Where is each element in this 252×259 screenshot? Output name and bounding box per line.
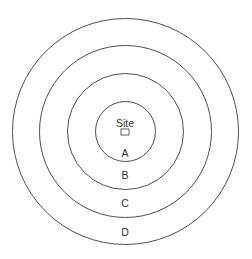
concentric-zones-diagram: Site A B C D bbox=[0, 0, 252, 259]
site-label: Site bbox=[116, 117, 134, 129]
zone-d-label: D bbox=[121, 226, 129, 238]
site-marker bbox=[121, 129, 129, 135]
zone-a-label: A bbox=[121, 147, 128, 159]
zone-c-label: C bbox=[121, 197, 129, 209]
zone-b-label: B bbox=[121, 169, 128, 181]
